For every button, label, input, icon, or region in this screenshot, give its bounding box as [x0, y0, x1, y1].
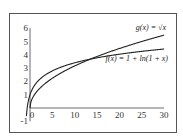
chart-plot: 051015202530-1123456g(x) = √xf(x) = 1 + …	[0, 0, 183, 140]
series-label-f: f(x) = 1 + ln(1 + x)	[106, 54, 169, 63]
x-tick-label: 10	[70, 110, 80, 120]
x-tick-label: 20	[115, 110, 125, 120]
y-tick-label: 5	[24, 37, 29, 47]
y-tick-label: 3	[24, 63, 29, 73]
x-tick-label: 15	[93, 110, 103, 120]
x-tick-label: 30	[160, 110, 170, 120]
x-tick-label: 25	[137, 110, 147, 120]
y-tick-label: 4	[24, 50, 29, 60]
y-tick-label: 6	[24, 23, 29, 33]
y-tick-label: 1	[24, 90, 29, 100]
series-label-g: g(x) = √x	[136, 23, 167, 32]
x-tick-label: 5	[50, 110, 55, 120]
y-tick-label: 2	[24, 76, 29, 86]
x-tick-label: 0	[30, 110, 35, 120]
y-tick-label: -1	[21, 116, 29, 126]
